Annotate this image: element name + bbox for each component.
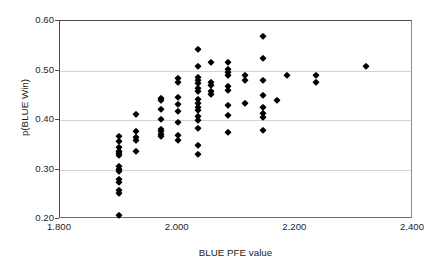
data-point [174, 108, 180, 114]
plot-area [59, 20, 412, 218]
gridline-y-0.50 [60, 71, 411, 72]
data-point [363, 62, 369, 68]
y-tick-label: 0.60 [0, 15, 54, 25]
gridline-y-0.40 [60, 120, 411, 121]
data-point [225, 102, 231, 108]
data-point [195, 151, 201, 157]
data-point [174, 119, 180, 125]
data-point [208, 91, 214, 97]
data-point [260, 127, 266, 133]
data-point [273, 97, 279, 103]
data-point [158, 106, 164, 112]
data-point [225, 87, 231, 93]
data-point [260, 33, 266, 39]
x-tick-label: 2.000 [165, 221, 189, 232]
data-point [260, 55, 266, 61]
data-point [174, 93, 180, 99]
y-tick-mark [55, 218, 59, 219]
gridline-y-0.30 [60, 170, 411, 171]
data-point [225, 111, 231, 117]
data-point [116, 190, 122, 196]
data-point [174, 137, 180, 143]
data-point [195, 142, 201, 148]
data-point [225, 129, 231, 135]
data-point [283, 72, 289, 78]
data-point [242, 99, 248, 105]
data-point [174, 79, 180, 85]
data-point [195, 63, 201, 69]
data-point [133, 148, 139, 154]
data-point [116, 212, 122, 218]
data-point [174, 101, 180, 107]
data-point [133, 137, 139, 143]
x-tick-label: 2.200 [282, 221, 306, 232]
data-point [133, 111, 139, 117]
data-point [225, 58, 231, 64]
data-point [158, 116, 164, 122]
scatter-chart: 0.200.300.400.500.60 1.8002.0002.2002.40… [0, 0, 437, 270]
data-point [195, 117, 201, 123]
y-axis-title: p(BLUE Win) [19, 38, 30, 178]
data-point [225, 72, 231, 78]
x-tick-label: 1.800 [47, 221, 71, 232]
data-point [242, 77, 248, 83]
x-tick-label: 2.400 [400, 221, 424, 232]
data-point [313, 79, 319, 85]
data-point [260, 77, 266, 83]
data-point [260, 92, 266, 98]
y-tick-label: 0.20 [0, 213, 54, 223]
data-point [195, 46, 201, 52]
data-point [195, 125, 201, 131]
x-axis-title: BLUE PFE value [59, 247, 412, 258]
data-point [208, 59, 214, 65]
